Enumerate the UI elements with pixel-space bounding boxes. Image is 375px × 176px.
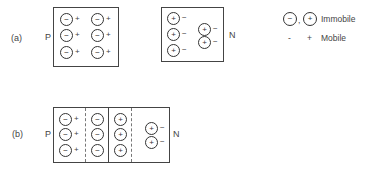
figure-a-label: (a) xyxy=(11,34,22,43)
n-depletion-boundary xyxy=(131,108,132,162)
figure-a-n-block: + − + − + − + − + − xyxy=(161,7,224,62)
immobile-negative-ion: − xyxy=(60,29,73,42)
immobile-negative-ion: − xyxy=(91,128,104,141)
figure-a-p-block: − + − + − + − + − + − + xyxy=(53,7,119,67)
immobile-negative-ion: − xyxy=(91,113,104,126)
immobile-negative-ion: − xyxy=(60,13,73,26)
immobile-negative-ion: − xyxy=(60,46,73,59)
immobile-negative-ion: − xyxy=(91,29,104,42)
figure-a-p-label: P xyxy=(45,33,51,42)
immobile-positive-ion: + xyxy=(167,44,180,57)
mobile-positive-carrier: + xyxy=(106,31,111,39)
immobile-negative-ion: − xyxy=(91,46,104,59)
immobile-positive-ion: + xyxy=(145,122,158,135)
p-depletion-boundary xyxy=(85,108,86,162)
legend-mobile-label: Mobile xyxy=(321,33,346,43)
mobile-positive-carrier: + xyxy=(74,130,79,138)
mobile-negative-carrier: − xyxy=(213,25,218,33)
immobile-positive-ion: + xyxy=(114,144,127,157)
immobile-negative-ion: − xyxy=(59,128,72,141)
immobile-negative-ion: − xyxy=(91,144,104,157)
immobile-positive-ion: + xyxy=(167,28,180,41)
legend-mobile-positive: + xyxy=(307,33,312,43)
immobile-negative-ion: − xyxy=(59,144,72,157)
immobile-positive-ion: + xyxy=(167,12,180,25)
mobile-negative-carrier: − xyxy=(182,46,187,54)
figure-b-n-label: N xyxy=(173,130,180,139)
figure-b-junction-block: − + − + − + − − − + + + + − + − xyxy=(53,107,170,163)
mobile-negative-carrier: − xyxy=(160,138,165,146)
immobile-positive-ion: + xyxy=(198,36,211,49)
figure-a-n-label: N xyxy=(229,31,236,40)
mobile-positive-carrier: + xyxy=(106,48,111,56)
figure-b-label: (b) xyxy=(12,130,23,139)
metallurgical-junction xyxy=(108,108,109,162)
mobile-negative-carrier: − xyxy=(213,38,218,46)
mobile-negative-carrier: − xyxy=(182,30,187,38)
immobile-positive-ion: + xyxy=(114,128,127,141)
mobile-negative-carrier: − xyxy=(182,14,187,22)
legend-immobile-label: Immobile xyxy=(321,14,355,24)
immobile-positive-ion: + xyxy=(114,113,127,126)
mobile-negative-carrier: − xyxy=(160,124,165,132)
mobile-positive-carrier: + xyxy=(106,15,111,23)
legend-mobile-negative: - xyxy=(288,33,291,43)
mobile-positive-carrier: + xyxy=(74,115,79,123)
mobile-positive-carrier: + xyxy=(75,31,80,39)
mobile-positive-carrier: + xyxy=(74,146,79,154)
immobile-negative-ion: − xyxy=(91,13,104,26)
figure-b-p-label: P xyxy=(45,130,51,139)
legend-separator: , xyxy=(298,15,300,25)
immobile-negative-ion: − xyxy=(59,113,72,126)
mobile-positive-carrier: + xyxy=(75,15,80,23)
legend-immobile-negative-icon: − xyxy=(283,12,297,26)
immobile-positive-ion: + xyxy=(145,136,158,149)
legend-immobile-positive-icon: + xyxy=(303,12,317,26)
mobile-positive-carrier: + xyxy=(75,48,80,56)
immobile-positive-ion: + xyxy=(198,23,211,36)
